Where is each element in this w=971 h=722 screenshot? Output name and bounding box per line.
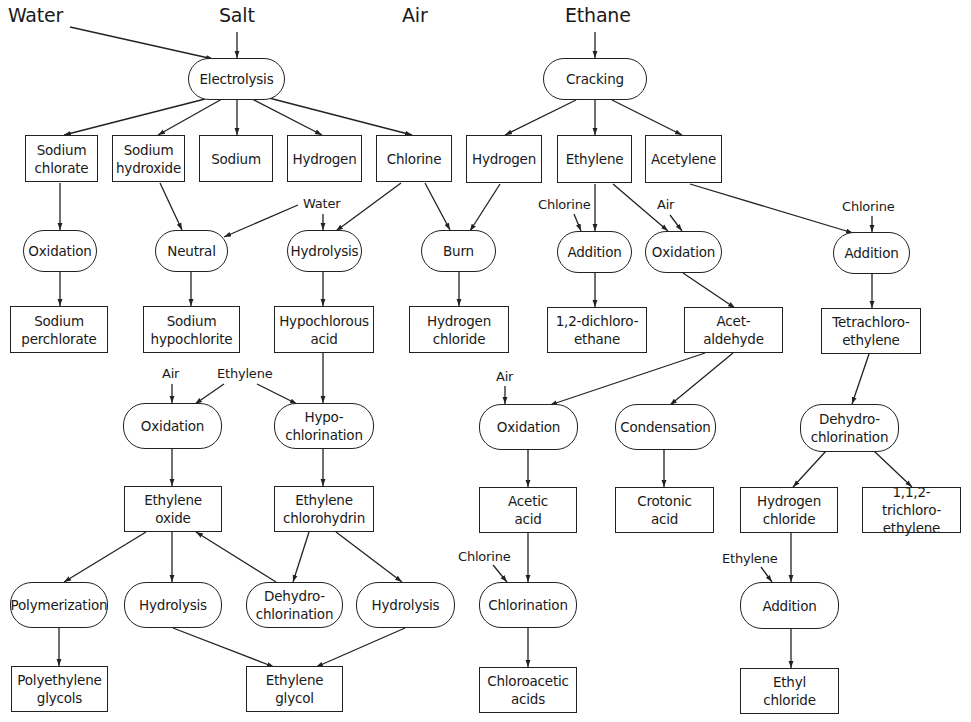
process-label: Polymerization — [11, 596, 108, 614]
product-label: Sodium perchlorate — [21, 312, 96, 348]
process-label: Cracking — [566, 70, 624, 88]
product-label: Hydrogen — [472, 150, 536, 168]
process-label: Oxidation — [497, 418, 560, 436]
product-node-ethylene: Ethylene — [557, 135, 632, 183]
edge-hydrogen2-to-burn — [470, 184, 500, 231]
edge-water_top-to-electrolysis — [70, 27, 213, 59]
input-label-water-mid: Water — [303, 196, 340, 212]
edge-hydrolysis2-to-ethylene_glycol — [173, 628, 274, 667]
edge-acetaldehyde-to-oxidation_aa — [550, 353, 705, 405]
product-label: Sodium — [211, 150, 261, 168]
product-label: Ethylene — [566, 150, 624, 168]
edge-acetaldehyde-to-condensation — [670, 353, 733, 405]
edge-electrolysis-to-hydrogen1 — [252, 99, 322, 135]
process-node-polymerization: Polymerization — [10, 582, 108, 628]
product-label: Ethyl chloride — [763, 673, 816, 709]
edge-ethylene_chlorohydrin-to-dehydrochlorination1 — [293, 532, 309, 582]
input-label-air-ox2: Air — [162, 366, 179, 382]
edge-dehydrochlorination2-to-trichloroethylene — [874, 451, 912, 487]
edge-ethylene_oxide-to-polymerization — [64, 532, 146, 582]
process-node-dehydrochlorination2: Dehydro- chlorination — [800, 404, 899, 452]
process-node-hypochlorination: Hypo- chlorination — [274, 403, 374, 449]
process-node-addition3: Addition — [740, 582, 839, 629]
product-node-acetylene: Acetylene — [645, 135, 722, 183]
edge-chlorine-to-burn — [425, 183, 450, 230]
process-label: Addition — [844, 244, 898, 262]
product-label: 1,1,2-trichloro- ethylene — [863, 483, 960, 537]
product-node-hydrogen-chloride2: Hydrogen chloride — [740, 487, 838, 533]
product-node-ethylene-chlorohydrin: Ethylene chlorohydrin — [274, 486, 374, 532]
edge-ethylene_add3-to-addition3 — [761, 567, 772, 582]
input-label-chlorine-add1: Chlorine — [538, 197, 590, 213]
process-node-oxidation-eo: Oxidation — [123, 403, 222, 449]
product-node-ethylene-glycol: Ethylene glycol — [246, 666, 343, 712]
product-label: Acet- aldehyde — [703, 312, 764, 348]
edge-oxidation_c2-to-acetaldehyde — [683, 273, 735, 308]
edge-air_ox1-to-oxidation_c2 — [670, 215, 682, 231]
process-node-cracking: Cracking — [543, 58, 647, 100]
edge-sodium_hydroxide-to-neutral — [160, 183, 182, 230]
product-node-sodium: Sodium — [199, 135, 273, 182]
process-node-oxidation-aa: Oxidation — [479, 404, 578, 450]
process-node-oxidation-na: Oxidation — [23, 230, 97, 272]
process-label: Burn — [443, 242, 474, 260]
edge-hydrolysis3-to-ethylene_glycol — [316, 628, 405, 667]
input-label-air-ox3: Air — [496, 369, 513, 385]
process-label: Addition — [762, 597, 816, 615]
process-label: Hypo- chlorination — [285, 408, 363, 444]
input-label-ethylene-in: Ethylene — [217, 366, 273, 382]
product-label: Ethylene chlorohydrin — [283, 491, 365, 527]
raw-material-salt: Salt — [219, 4, 255, 26]
process-label: Hydrolysis — [372, 596, 440, 614]
product-node-crotonic-acid: Crotonic acid — [615, 487, 714, 533]
process-label: Condensation — [620, 418, 710, 436]
process-node-burn: Burn — [421, 230, 496, 272]
product-node-hypochlorous-acid: Hypochlorous acid — [274, 306, 374, 353]
process-label: Electrolysis — [200, 70, 274, 88]
product-node-hydrogen1: Hydrogen — [287, 135, 362, 182]
edge-electrolysis-to-sodium_chlorate — [64, 99, 205, 135]
process-node-neutral: Neutral — [155, 230, 228, 272]
raw-material-ethane: Ethane — [565, 4, 631, 26]
raw-material-air-top: Air — [402, 4, 428, 26]
product-label: 1,2-dichloro- ethane — [556, 312, 639, 348]
edge-cracking-to-hydrogen2 — [505, 100, 576, 135]
product-label: Sodium hypochlorite — [151, 312, 233, 348]
edge-acetylene-to-addition2 — [690, 184, 853, 233]
edge-dehydrochlorination1-to-ethylene_oxide — [196, 532, 276, 582]
process-label: Hydrolysis — [139, 596, 207, 614]
process-node-hydrolysis2: Hydrolysis — [124, 582, 222, 628]
product-label: Crotonic acid — [637, 492, 692, 528]
edge-chlorine_chl-to-chlorination — [493, 565, 507, 582]
process-node-hydrolysis1: Hydrolysis — [287, 230, 362, 272]
process-label: Hydrolysis — [291, 242, 359, 260]
process-node-addition2: Addition — [833, 232, 910, 274]
process-node-oxidation-c2: Oxidation — [645, 231, 722, 273]
process-label: Chlorination — [488, 596, 568, 614]
edge-electrolysis-to-chlorine — [269, 98, 412, 135]
product-node-polyethylene-glycols: Polyethylene glycols — [11, 666, 108, 712]
product-label: Acetylene — [651, 150, 716, 168]
product-node-chlorine: Chlorine — [376, 135, 452, 182]
product-label: Hypochlorous acid — [279, 312, 369, 348]
input-label-air-ox1: Air — [657, 197, 674, 213]
input-label-chlorine-add2: Chlorine — [842, 199, 894, 215]
process-label: Oxidation — [141, 417, 204, 435]
input-label-ethylene-add3: Ethylene — [722, 551, 778, 567]
product-node-acetaldehyde: Acet- aldehyde — [684, 307, 783, 353]
product-node-sodium-hydroxide: Sodium hydroxide — [112, 135, 185, 182]
product-node-dichloroethane: 1,2-dichloro- ethane — [547, 307, 647, 353]
product-label: Sodium hydroxide — [116, 141, 181, 177]
flowchart-canvas: ElectrolysisCrackingOxidationNeutralHydr… — [0, 0, 971, 722]
edge-dehydrochlorination2-to-hydrogen_chloride2 — [793, 451, 826, 487]
product-label: Chlorine — [387, 150, 442, 168]
edge-chlorine-to-hydrolysis1 — [336, 183, 401, 231]
raw-material-water-top: Water — [8, 4, 63, 26]
product-node-ethylene-oxide: Ethylene oxide — [124, 486, 222, 532]
edge-cracking-to-acetylene — [612, 100, 682, 135]
product-node-sodium-chlorate: Sodium chlorate — [25, 135, 98, 182]
edge-chlorine_add1-to-addition1 — [574, 214, 581, 231]
process-label: Dehydro- chlorination — [256, 587, 334, 623]
process-label: Neutral — [167, 242, 215, 260]
process-node-chlorination: Chlorination — [479, 582, 577, 628]
